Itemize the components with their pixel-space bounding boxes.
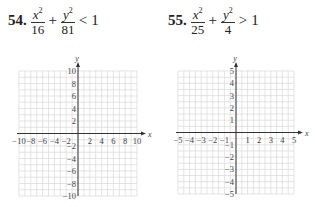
- y-tick-label: −2: [67, 141, 76, 151]
- y-tick-label: −4: [225, 177, 235, 187]
- y-tick-label: 3: [230, 91, 234, 101]
- x-axis-arrow-icon: [141, 132, 146, 136]
- x-axis-label: x: [147, 130, 152, 139]
- y-axis-label: y: [74, 54, 79, 63]
- x-tick-label: 2: [257, 135, 261, 145]
- y-tick-label: −4: [67, 154, 77, 164]
- y-tick-label: 2: [230, 103, 234, 113]
- x-tick-label: 4: [280, 135, 285, 145]
- y-tick-label: 10: [68, 66, 77, 76]
- y-tick-label: 8: [72, 79, 76, 89]
- x-tick-label: −4: [185, 135, 195, 145]
- x-axis-arrow-icon: [298, 131, 303, 135]
- y-tick-label: −8: [67, 179, 76, 189]
- x-tick-label: −2: [208, 135, 217, 145]
- x-tick-label: 1: [245, 135, 249, 145]
- y-tick-label: 2: [72, 116, 76, 126]
- x-tick-label: −8: [26, 136, 35, 146]
- x-tick-label: 10: [133, 136, 142, 146]
- y-tick-label: 6: [72, 91, 76, 101]
- y-tick-label: −1: [225, 140, 234, 150]
- x-tick-label: −4: [50, 136, 60, 146]
- x-tick-label: −3: [197, 135, 206, 145]
- y-tick-label: −3: [225, 164, 234, 174]
- x-tick-label: −5: [173, 135, 182, 145]
- x-tick-label: −6: [38, 136, 47, 146]
- graphs: xy−10−8−6−4−2246810108642−2−4−6−8−10 xy−…: [0, 0, 315, 207]
- x-tick-label: 5: [292, 135, 296, 145]
- y-tick-label: 5: [230, 66, 234, 76]
- x-tick-label: 3: [269, 135, 273, 145]
- x-axis-label: x: [304, 129, 309, 138]
- x-tick-label: 8: [123, 136, 127, 146]
- coordinate-grid-54: xy−10−8−6−4−2246810108642−2−4−6−8−10: [12, 54, 152, 201]
- x-tick-label: 4: [99, 136, 104, 146]
- y-tick-label: −6: [67, 166, 76, 176]
- x-tick-label: −10: [12, 136, 25, 146]
- x-tick-label: 6: [111, 136, 115, 146]
- y-tick-label: −10: [63, 191, 76, 201]
- y-tick-label: −2: [225, 152, 234, 162]
- x-tick-label: 2: [88, 136, 92, 146]
- coordinate-grid-55: xy−5−4−3−2−11234554321−1−2−3−4−5: [173, 54, 309, 199]
- y-axis-label: y: [232, 54, 237, 63]
- y-tick-label: 1: [230, 115, 234, 125]
- y-tick-label: −5: [225, 189, 234, 199]
